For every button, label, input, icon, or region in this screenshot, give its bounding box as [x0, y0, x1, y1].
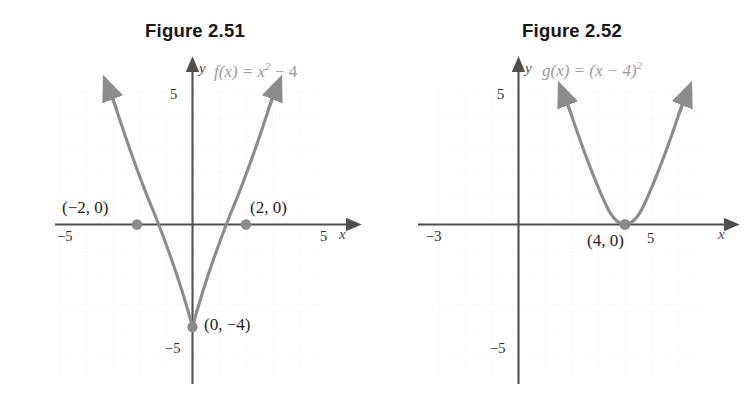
x-tick-neg3: −3	[426, 228, 441, 245]
y-tick-neg5: −5	[165, 340, 180, 357]
x-tick-5: 5	[320, 228, 327, 245]
function-label-f: f(x) = x2 − 4	[214, 62, 297, 82]
point-label-4-0: (4, 0)	[587, 231, 624, 251]
function-label-g-exponent: 2	[637, 59, 643, 71]
y-axis-label: y	[199, 60, 206, 77]
x-tick-neg5: −5	[57, 228, 72, 245]
marked-points	[620, 219, 631, 230]
point-2-0	[241, 219, 251, 229]
function-label-g-lhs: g(x) = (x − 4)	[542, 61, 637, 80]
function-label-f-base: x	[258, 62, 266, 81]
function-label-f-exponent: 2	[265, 60, 271, 72]
x-axis-label: x	[339, 226, 346, 243]
y-axis-label: y	[525, 60, 532, 77]
function-label-g: g(x) = (x − 4)2	[542, 61, 642, 81]
x-tick-5: 5	[647, 230, 654, 247]
y-tick-neg5: −5	[490, 340, 505, 357]
grid-lines	[439, 91, 704, 372]
x-axis-label: x	[718, 226, 725, 243]
point-label-neg2-0: (−2, 0)	[62, 198, 108, 218]
point-label-0-neg4: (0, −4)	[204, 315, 250, 335]
y-tick-5: 5	[170, 86, 177, 103]
figure-2-52: Figure 2.52	[378, 0, 756, 407]
figure-2-51: Figure 2.51	[0, 0, 378, 407]
function-label-f-lhs: f(x) =	[214, 62, 253, 81]
point-label-2-0: (2, 0)	[250, 198, 287, 218]
y-tick-5: 5	[497, 86, 504, 103]
point-4-0	[620, 219, 631, 230]
function-label-f-tail: − 4	[275, 62, 297, 81]
figure-1-plot	[0, 0, 378, 407]
point-neg2-0	[132, 219, 142, 229]
point-0-neg4	[187, 322, 197, 332]
